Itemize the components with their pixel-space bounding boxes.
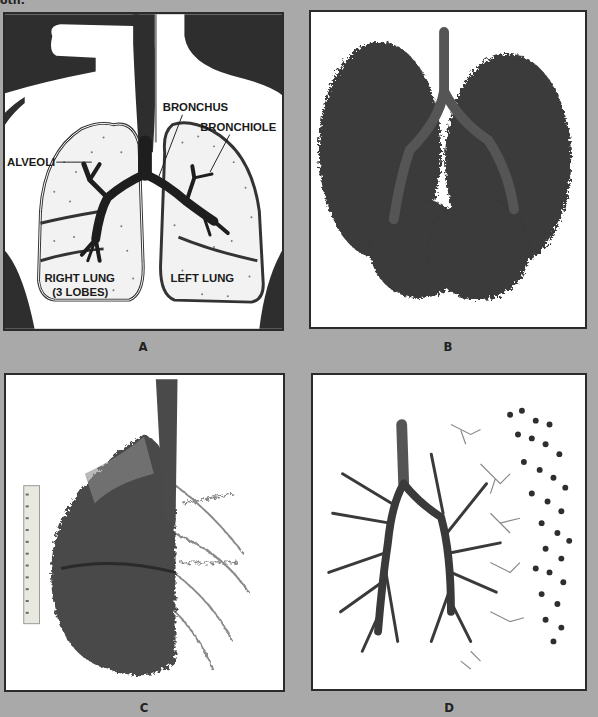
- label-right-lung-lobes: (3 LOBES): [52, 286, 108, 298]
- bronchial-cast-image: [311, 12, 585, 327]
- panel-c-lobe-cast-photo: [4, 373, 285, 692]
- label-bronchus: BRONCHUS: [163, 101, 229, 113]
- lung-diagram-illustration: BRONCHUS BRONCHIOLE ALVEOLI RIGHT LUNG (…: [5, 14, 282, 329]
- caption-a: A: [133, 339, 153, 354]
- cropped-caption-fragment: oth.: [0, 0, 25, 7]
- label-right-lung: RIGHT LUNG: [44, 272, 115, 284]
- panel-d-dissected-tree-photo: [311, 373, 587, 691]
- label-bronchiole: BRONCHIOLE: [200, 121, 277, 133]
- lobe-cast-image: [6, 375, 283, 690]
- panel-a-lung-diagram: BRONCHUS BRONCHIOLE ALVEOLI RIGHT LUNG (…: [3, 12, 284, 331]
- panel-b-bronchial-cast-photo: [309, 10, 587, 329]
- label-alveoli: ALVEOLI: [7, 156, 55, 168]
- label-left-lung: LEFT LUNG: [171, 272, 235, 284]
- caption-c: C: [134, 700, 154, 715]
- dissected-tree-image: [313, 375, 585, 689]
- caption-d: D: [439, 700, 459, 715]
- caption-b: B: [438, 339, 458, 354]
